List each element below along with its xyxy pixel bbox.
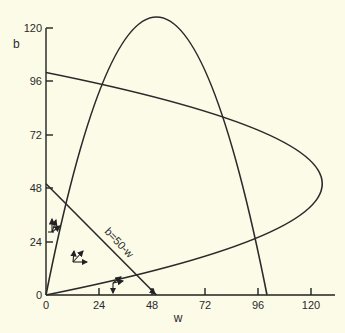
xtick-24: 24 — [93, 299, 105, 311]
line-b-50-minus-w — [46, 184, 157, 295]
ytick-96: 96 — [30, 75, 42, 87]
y-tick-labels: 120 96 72 48 24 0 — [24, 22, 42, 301]
x-tick-labels: 0 24 48 72 96 120 — [43, 299, 320, 311]
xtick-48: 48 — [146, 299, 158, 311]
y-axis-label: b — [13, 37, 20, 51]
xtick-72: 72 — [199, 299, 211, 311]
xtick-120: 120 — [302, 299, 320, 311]
ytick-72: 72 — [30, 129, 42, 141]
ytick-48: 48 — [30, 182, 42, 194]
upright-parabola-curve — [46, 17, 267, 295]
xtick-96: 96 — [252, 299, 264, 311]
xtick-0: 0 — [43, 299, 49, 311]
x-axis-label: w — [173, 311, 183, 325]
line-annotation: b=50-w — [103, 225, 137, 260]
ytick-0: 0 — [36, 289, 42, 301]
phase-plane-chart: 120 96 72 48 24 0 0 24 48 72 96 120 b w … — [0, 0, 345, 333]
arrow-cluster-left — [48, 219, 60, 232]
axes — [46, 28, 335, 295]
ytick-24: 24 — [30, 236, 42, 248]
arrow-cluster-center — [73, 251, 87, 262]
sideways-parabola-curve — [46, 73, 322, 296]
ytick-120: 120 — [24, 22, 42, 34]
